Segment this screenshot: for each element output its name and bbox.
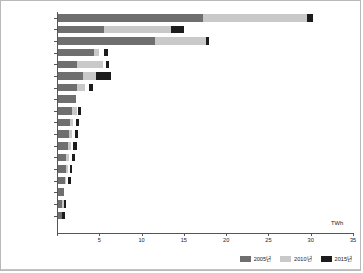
legend-label: 2015년 [335,255,352,263]
bar-segment[interactable] [203,14,308,22]
x-axis-tick [99,233,100,236]
stacked-bar[interactable] [58,165,72,173]
bar-segment[interactable] [58,72,83,80]
bar-segment[interactable] [58,142,68,150]
bar-segment[interactable] [155,37,206,45]
bar-segment[interactable] [96,72,111,80]
bar-segment[interactable] [58,130,69,138]
chart-row: 영상통합 [57,24,353,36]
bar-segment[interactable] [206,37,209,45]
bar-segment[interactable] [62,212,65,220]
x-axis-tick-label: 25 [265,237,271,243]
stacked-bar[interactable] [58,200,66,208]
axis-unit-label: TWh [331,220,343,226]
bar-segment[interactable] [58,177,65,185]
bar-segment[interactable] [104,49,108,57]
bar-segment[interactable] [58,37,155,45]
bar-segment[interactable] [75,130,78,138]
x-axis-tick [268,233,269,236]
chart-row: 전기기기 [57,175,353,187]
chart-row: 가구/기타 [57,186,353,198]
bar-segment[interactable] [77,84,85,92]
stacked-bar[interactable] [58,49,108,57]
bar-segment[interactable] [58,107,72,115]
x-axis-tick-label: 15 [181,237,187,243]
chart-row: 석유화학 [57,47,353,59]
chart-row: 농림어업 [57,152,353,164]
legend-item[interactable]: 2010년 [280,255,311,263]
x-axis-tick [57,233,58,236]
chart-row: 펄프종이 [57,105,353,117]
stacked-bar[interactable] [58,119,79,127]
bar-segment[interactable] [58,84,77,92]
stacked-bar[interactable] [58,188,64,196]
stacked-bar[interactable] [58,154,75,162]
bar-segment[interactable] [76,119,79,127]
stacked-bar[interactable] [58,14,313,22]
bar-segment[interactable] [83,72,97,80]
chart-row: 공공용 [57,59,353,71]
bar-segment[interactable] [58,188,64,196]
stacked-bar[interactable] [58,72,111,80]
stacked-bar[interactable] [58,107,81,115]
chart-row: 식료품 [57,128,353,140]
x-axis-tick [311,233,312,236]
stacked-bar[interactable] [58,177,71,185]
bar-segment[interactable] [58,165,66,173]
chart-row: 출판인쇄 [57,210,353,222]
chart-row: 조립금속 [57,117,353,129]
legend-swatch [321,256,332,262]
chart-row: 자동차 [57,82,353,94]
legend-label: 2010년 [294,255,311,263]
bar-segment[interactable] [58,61,77,69]
bar-segment[interactable] [58,119,70,127]
plot-area: 서비스업영상통합가정용석유화학공공용기타 기계자동차섬유의복펄프종이조립금속식료… [57,12,353,233]
x-axis-tick [184,233,185,236]
bar-segment[interactable] [78,107,81,115]
bar-segment[interactable] [77,61,102,69]
bar-segment[interactable] [307,14,312,22]
figure-baseline-rule [1,269,360,270]
chart-legend: 2005년2010년2015년 [1,253,352,265]
chart-row: 의료과학 [57,198,353,210]
y-axis-line [57,12,58,233]
bar-segment[interactable] [73,142,76,150]
x-axis-tick-label: 35 [350,237,356,243]
legend-item[interactable]: 2015년 [321,255,352,263]
x-axis-tick-label: 10 [138,237,144,243]
bar-segment[interactable] [68,177,71,185]
chart-row: 요업 [57,163,353,175]
stacked-bar[interactable] [58,142,77,150]
x-axis-tick-label: 20 [223,237,229,243]
bar-segment[interactable] [104,26,172,34]
stacked-bar[interactable] [58,84,93,92]
stacked-bar[interactable] [58,37,209,45]
bar-segment[interactable] [58,49,94,57]
stacked-bar[interactable] [58,212,65,220]
chart-row: 섬유의복 [57,93,353,105]
legend-swatch [280,256,291,262]
bar-segment[interactable] [106,61,109,69]
stacked-bar[interactable] [58,130,78,138]
chart-row: 기타 기계 [57,70,353,82]
bar-segment[interactable] [58,154,66,162]
stacked-bar[interactable] [58,26,184,34]
x-axis-tick-label: 5 [98,237,101,243]
stacked-bar[interactable] [58,61,109,69]
bar-segment[interactable] [89,84,92,92]
x-axis-tick-label: 30 [308,237,314,243]
bar-segment[interactable] [58,95,76,103]
bar-segment[interactable] [171,26,184,34]
x-axis-tick [353,233,354,236]
legend-item[interactable]: 2005년 [240,255,271,263]
chart-row: 가정용 [57,35,353,47]
x-axis-tick [142,233,143,236]
bar-segment[interactable] [72,154,75,162]
stacked-bar[interactable] [58,95,76,103]
bar-segment[interactable] [64,200,66,208]
legend-label: 2005년 [254,255,271,263]
bar-segment[interactable] [58,26,104,34]
bar-segment[interactable] [70,165,73,173]
bar-segment[interactable] [58,14,203,22]
x-axis-line: 5101520253035 [57,233,353,234]
